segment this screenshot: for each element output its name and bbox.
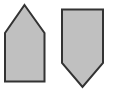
shapes-illustration xyxy=(0,0,113,90)
figure-canvas xyxy=(0,0,113,90)
